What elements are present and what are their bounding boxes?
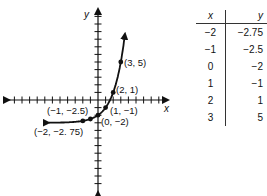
cell-x: 2 xyxy=(196,92,225,109)
cell-x: 1 xyxy=(196,75,225,92)
data-point xyxy=(80,119,85,124)
table-header-x: x xyxy=(196,10,225,24)
data-point xyxy=(96,113,101,118)
point-label-2-1: (2, 1) xyxy=(116,84,138,95)
graph: y x (3, 5) (2, 1) (1, −1) (−1, −2.5) (0,… xyxy=(0,0,175,196)
x-axis-label: x xyxy=(163,103,170,114)
point-label-neg1-neg2_5: (−1, −2.5) xyxy=(47,105,88,116)
cell-y: −2 xyxy=(225,58,267,75)
table-row: −2−2.75 xyxy=(196,24,267,42)
cell-y: 5 xyxy=(225,109,267,126)
data-point xyxy=(111,90,116,95)
table-header-y: y xyxy=(225,10,267,24)
point-label-3-5: (3, 5) xyxy=(124,57,146,68)
cell-y: −2.75 xyxy=(225,24,267,42)
table-row: 35 xyxy=(196,109,267,126)
table-row: 1−1 xyxy=(196,75,267,92)
cell-y: −2.5 xyxy=(225,41,267,58)
point-label-neg2-neg2_75: (−2, −2. 75) xyxy=(34,126,83,137)
y-axis-label: y xyxy=(83,9,90,20)
data-point xyxy=(118,60,123,65)
cell-y: 1 xyxy=(225,92,267,109)
values-table: x y −2−2.75−1−2.50−21−12135 xyxy=(196,10,267,126)
data-point xyxy=(103,105,108,110)
cell-x: −1 xyxy=(196,41,225,58)
table-row: 0−2 xyxy=(196,58,267,75)
cell-y: −1 xyxy=(225,75,267,92)
table-row: −1−2.5 xyxy=(196,41,267,58)
data-point xyxy=(88,117,93,122)
cell-x: −2 xyxy=(196,24,225,42)
cell-x: 3 xyxy=(196,109,225,126)
point-label-1-neg1: (1, −1) xyxy=(110,105,138,116)
cell-x: 0 xyxy=(196,58,225,75)
point-label-0-neg2: (0, −2) xyxy=(101,116,129,127)
axes xyxy=(9,9,168,192)
table-row: 21 xyxy=(196,92,267,109)
